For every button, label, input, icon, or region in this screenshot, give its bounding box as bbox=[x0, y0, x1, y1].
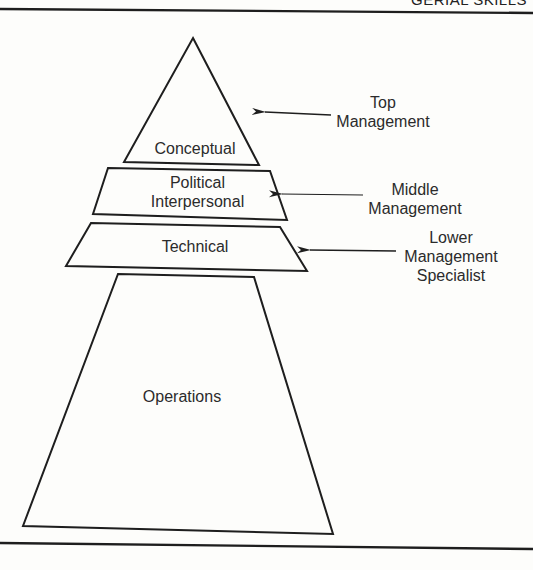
tier-label-technical-line-1: Technical bbox=[162, 238, 229, 255]
level-label-lower-line-1: Lower bbox=[396, 228, 506, 247]
tier-label-operations: Operations bbox=[132, 387, 232, 406]
level-label-top-line-1: Top bbox=[328, 93, 438, 112]
level-label-top-line-2: Management bbox=[328, 112, 438, 131]
arrow-lower-management bbox=[310, 250, 396, 251]
level-label-lower-management: Lower Management Specialist bbox=[396, 228, 506, 285]
tier-label-political-line-2: Interpersonal bbox=[125, 192, 270, 211]
tier-label-political-line-1: Political bbox=[125, 173, 270, 192]
top-rule bbox=[0, 9, 533, 13]
page: GERIAL SKILLS Conceptual Political Inter… bbox=[0, 0, 533, 570]
tier-label-operations-line-1: Operations bbox=[143, 388, 221, 405]
level-label-lower-line-2: Management bbox=[396, 247, 506, 266]
level-label-middle-line-1: Middle bbox=[360, 180, 470, 199]
bottom-rule bbox=[0, 543, 533, 549]
level-label-middle-line-2: Management bbox=[360, 199, 470, 218]
level-label-middle-management: Middle Management bbox=[360, 180, 470, 218]
arrow-middle-management bbox=[282, 194, 363, 195]
pyramid-diagram bbox=[0, 0, 533, 570]
level-label-top-management: Top Management bbox=[328, 93, 438, 131]
tier-label-technical: Technical bbox=[135, 237, 255, 256]
arrow-top-management bbox=[265, 112, 331, 115]
level-label-lower-line-3: Specialist bbox=[396, 266, 506, 285]
tier-label-conceptual: Conceptual bbox=[140, 139, 250, 158]
tier-label-political: Political Interpersonal bbox=[125, 173, 270, 211]
tier-label-conceptual-line-1: Conceptual bbox=[155, 140, 236, 157]
